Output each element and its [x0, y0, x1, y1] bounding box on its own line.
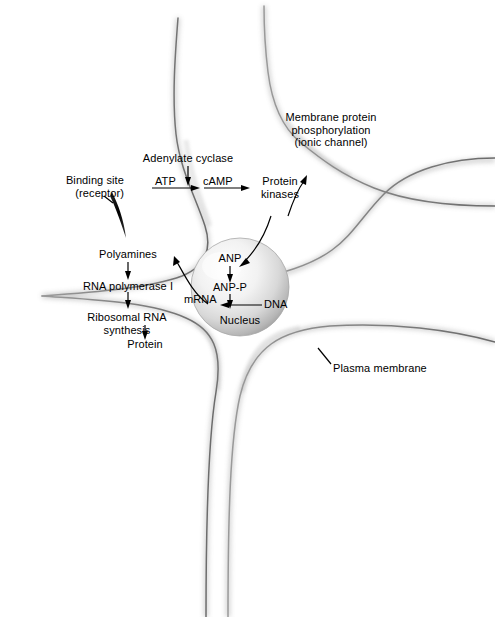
- anp-p-label: ANP-P: [203, 281, 257, 294]
- ribosomal-rna-label: Ribosomal RNA synthesis: [73, 311, 181, 336]
- rna-polymerase-label: RNA polymerase I: [77, 280, 179, 293]
- mrna-label: mRNA: [184, 293, 217, 306]
- camp-label: cAMP: [203, 175, 233, 188]
- atp-label: ATP: [155, 175, 176, 188]
- binding-site-label: Binding site (receptor): [30, 174, 124, 199]
- polyamines-label: Polyamines: [96, 248, 160, 261]
- plasma-membrane-leader-line: [318, 348, 331, 364]
- protein-kinases-label: Protein kinases: [252, 175, 308, 200]
- adenylate-cyclase-label: Adenylate cyclase: [126, 152, 250, 165]
- diagram-canvas: Binding site (receptor) Adenylate cyclas…: [0, 0, 495, 617]
- membrane-protein-label: Membrane protein phosphorylation (ionic …: [264, 111, 398, 149]
- dna-label: DNA: [264, 298, 288, 311]
- anp-label: ANP: [207, 252, 253, 265]
- nucleus-label: Nucleus: [211, 314, 269, 327]
- plasma-membrane-label: Plasma membrane: [333, 362, 427, 375]
- cell-illustration: [0, 0, 495, 617]
- protein-label: Protein: [117, 338, 173, 351]
